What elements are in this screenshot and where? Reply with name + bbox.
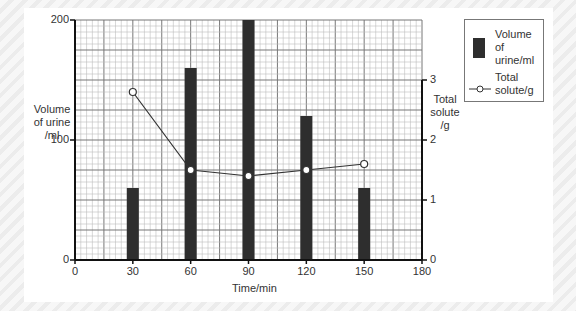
y-tick-label: 0 [40,253,69,265]
y2-tick-label: 0 [430,253,436,265]
line-marker [361,161,368,168]
legend-bar-swatch [473,38,485,58]
y2-tick-label: 1 [430,193,436,205]
line-marker [303,167,310,174]
y2-tick-label: 3 [430,73,436,85]
legend-bar-label: Volume of urine/ml [495,28,543,67]
x-tick-label: 0 [63,265,87,277]
y2-tick-label: 2 [430,133,436,145]
bar [127,188,139,260]
legend-line-label: Total solute/g [495,71,534,97]
bar [243,20,255,260]
legend: Volume of urine/ml Total solute/g [464,19,544,102]
x-tick-label: 60 [179,265,203,277]
x-tick-label: 180 [410,265,434,277]
legend-line-marker-icon [469,84,491,94]
line-marker [245,173,252,180]
x-tick-label: 90 [237,265,261,277]
line-marker [129,89,136,96]
y-axis-right-title: Total solute /g [425,93,465,132]
y-tick-label: 200 [40,13,69,25]
y-axis-left-title: Volume of urine /ml [22,103,82,142]
line-marker [187,167,194,174]
x-tick-label: 120 [294,265,318,277]
bar [300,116,312,260]
x-axis-title: Time/min [232,282,277,295]
bar [358,188,370,260]
x-tick-label: 30 [121,265,145,277]
x-tick-label: 150 [352,265,376,277]
